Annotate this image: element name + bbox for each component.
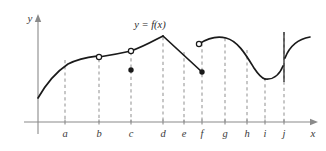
x-axis-label: x [310, 127, 316, 139]
open-point-f-right [196, 41, 201, 46]
y-axis-arrowhead [35, 14, 41, 22]
tick-label-g: g [222, 128, 227, 139]
tick-label-b: b [96, 128, 101, 139]
tick-label-e: e [182, 128, 187, 139]
branch-after-j [285, 37, 310, 58]
closed-point-f [199, 69, 204, 74]
tick-label-h: h [244, 128, 249, 139]
open-point-b [96, 54, 101, 59]
graph-canvas: abcdefghij y = f(x) y x [0, 0, 326, 151]
tick-label-c: c [129, 128, 134, 139]
axes-group [24, 14, 318, 134]
filled-circle-points [128, 67, 204, 74]
tick-label-i: i [264, 128, 267, 139]
branch-start-to-b [38, 56, 98, 98]
function-label: y = f(x) [133, 19, 166, 31]
y-axis-label: y [27, 12, 33, 24]
x-axis-arrowhead [310, 119, 318, 125]
tick-labels: abcdefghij [62, 128, 285, 139]
graph-figure: abcdefghij y = f(x) y x [0, 0, 326, 151]
branch-d-to-f [163, 36, 202, 72]
tick-label-a: a [62, 128, 67, 139]
branch-f-to-i [199, 37, 265, 79]
closed-point-c [128, 67, 133, 72]
tick-label-j: j [281, 128, 286, 139]
tick-label-d: d [160, 128, 166, 139]
function-curve [38, 36, 310, 98]
tick-label-f: f [201, 128, 206, 139]
open-point-c [128, 48, 133, 53]
branch-i-to-j [265, 66, 283, 79]
